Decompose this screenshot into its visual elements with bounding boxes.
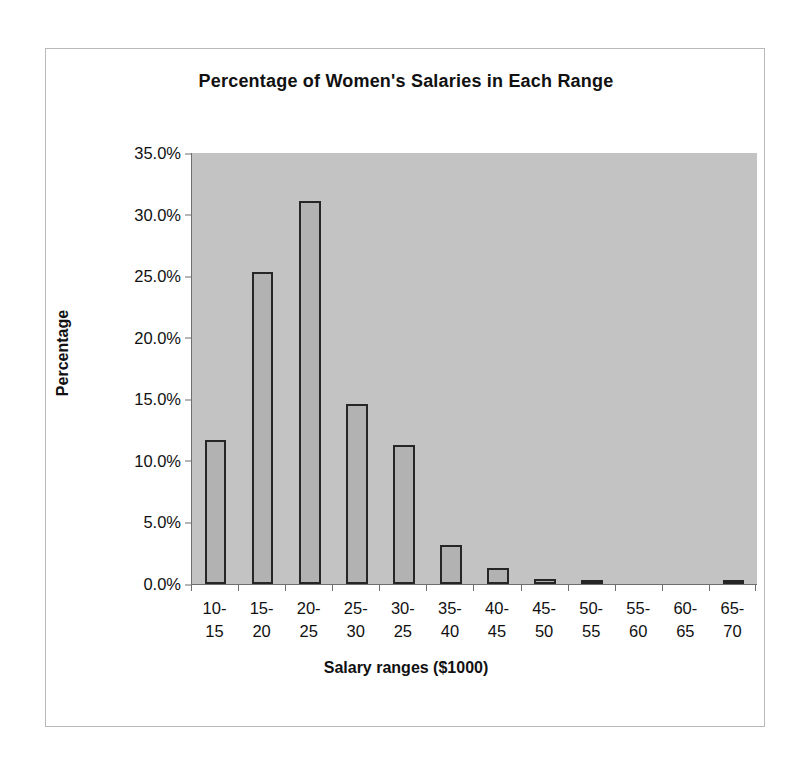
x-axis-tick-label-line: 20: [238, 620, 285, 643]
x-axis-tick-label-line: 50-: [568, 597, 615, 620]
x-axis-tick-label-line: 25-: [332, 597, 379, 620]
x-axis-tick-label-line: 35-: [426, 597, 473, 620]
bar[interactable]: [252, 272, 274, 584]
y-axis-tick-label: 15.0%: [134, 390, 192, 409]
x-axis-tick-label: 50-55: [568, 597, 615, 643]
y-axis-tick-label: 10.0%: [134, 451, 192, 470]
x-axis-tick: [662, 584, 709, 591]
x-axis-tick: [238, 584, 285, 591]
x-axis-tick-label-line: 15-: [238, 597, 285, 620]
bar-slot: [474, 153, 521, 584]
x-axis-tick-label: 15-20: [238, 597, 285, 643]
x-axis-tick: [473, 584, 520, 591]
x-axis-tick-label-line: 30-: [379, 597, 426, 620]
bar[interactable]: [487, 568, 509, 584]
bar-slot: [192, 153, 239, 584]
bar-slot: [663, 153, 710, 584]
bar-slot: [710, 153, 757, 584]
x-axis-tick-label: 45-50: [521, 597, 568, 643]
x-axis-tick: [615, 584, 662, 591]
x-axis-tick-label-line: 20-: [285, 597, 332, 620]
bar-slot: [522, 153, 569, 584]
x-axis-tick-label-line: 60-: [662, 597, 709, 620]
bar-slot: [286, 153, 333, 584]
x-axis-tick-label: 10-15: [191, 597, 238, 643]
bar-series: [192, 153, 757, 584]
x-axis-tick: [709, 584, 756, 591]
bar[interactable]: [393, 445, 415, 584]
x-axis-tick-label: 25-30: [332, 597, 379, 643]
x-axis-tick-label: 60-65: [662, 597, 709, 643]
x-axis-tick-label-line: 40-: [473, 597, 520, 620]
x-axis-tick-label-line: 15: [191, 620, 238, 643]
x-axis-tick-label: 55-60: [615, 597, 662, 643]
bar[interactable]: [440, 545, 462, 584]
bar-slot: [427, 153, 474, 584]
x-axis-tick-label-line: 65: [662, 620, 709, 643]
x-axis-tick: [332, 584, 379, 591]
y-axis-tick-label: 20.0%: [134, 328, 192, 347]
x-axis-tick-label-line: 45: [473, 620, 520, 643]
x-axis-tick-label-line: 60: [615, 620, 662, 643]
y-axis-tick-label: 30.0%: [134, 205, 192, 224]
x-axis-tick: [379, 584, 426, 591]
x-axis-tick: [426, 584, 473, 591]
chart-title: Percentage of Women's Salaries in Each R…: [46, 71, 766, 92]
x-axis-tick-labels: 10-1515-2020-2525-3030-2535-4040-4545-50…: [191, 597, 756, 643]
x-axis-ticks: [191, 584, 756, 591]
x-axis-tick-label-line: 40: [426, 620, 473, 643]
plot-area: 0.0%5.0%10.0%15.0%20.0%25.0%30.0%35.0%: [191, 153, 757, 585]
x-axis-tick-label-line: 25: [285, 620, 332, 643]
x-axis-tick-label: 30-25: [379, 597, 426, 643]
x-axis-tick: [191, 584, 238, 591]
x-axis-tick-label: 35-40: [426, 597, 473, 643]
x-axis-tick-label: 20-25: [285, 597, 332, 643]
bar[interactable]: [346, 404, 368, 584]
y-axis-tick-label: 25.0%: [134, 267, 192, 286]
bar[interactable]: [299, 201, 321, 584]
x-axis-tick: [568, 584, 615, 591]
x-axis-tick-label-line: 55: [568, 620, 615, 643]
bar-slot: [333, 153, 380, 584]
bar-slot: [380, 153, 427, 584]
y-axis-tick-label: 35.0%: [134, 144, 192, 163]
x-axis-title: Salary ranges ($1000): [46, 659, 766, 677]
x-axis-tick: [285, 584, 332, 591]
bar-slot: [616, 153, 663, 584]
chart-figure: Percentage of Women's Salaries in Each R…: [45, 48, 765, 727]
x-axis-tick-label-line: 10-: [191, 597, 238, 620]
bar-slot: [239, 153, 286, 584]
bar[interactable]: [205, 440, 227, 584]
y-axis-tick-label: 5.0%: [143, 513, 192, 532]
x-axis-tick: [521, 584, 568, 591]
y-axis-title: Percentage: [54, 273, 72, 433]
x-axis-tick-label-line: 65-: [709, 597, 756, 620]
x-axis-tick-label-line: 45-: [521, 597, 568, 620]
x-axis-tick-label-line: 30: [332, 620, 379, 643]
y-axis-tick-label: 0.0%: [143, 575, 192, 594]
x-axis-tick-label-line: 50: [521, 620, 568, 643]
x-axis-tick-label-line: 25: [379, 620, 426, 643]
x-axis-tick-label: 40-45: [473, 597, 520, 643]
x-axis-tick-label: 65-70: [709, 597, 756, 643]
x-axis-tick-label-line: 70: [709, 620, 756, 643]
x-axis-tick-label-line: 55-: [615, 597, 662, 620]
bar-slot: [569, 153, 616, 584]
